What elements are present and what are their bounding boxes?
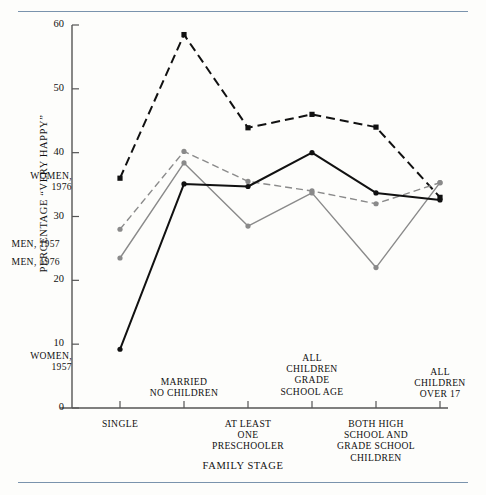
series-label: WOMEN, 1976 xyxy=(2,170,72,192)
y-axis-tick: 60 xyxy=(38,18,64,29)
x-axis-category-label: ALL CHILDREN OVER 17 xyxy=(397,366,483,400)
x-axis-category-label: BOTH HIGH SCHOOL AND GRADE SCHOOL CHILDR… xyxy=(316,418,436,463)
y-axis-title: PERCENTAGE “VERY HAPPY” xyxy=(38,79,49,309)
y-axis-tick: 10 xyxy=(38,337,64,348)
y-axis-tick: 0 xyxy=(38,401,64,412)
x-axis-title: FAMILY STAGE xyxy=(0,460,486,471)
series-label: WOMEN, 1957 xyxy=(2,350,72,372)
series-label: MEN, 1976 xyxy=(0,256,60,267)
chart-series-group xyxy=(120,35,440,350)
x-axis-category-label: AT LEAST ONE PRESCHOOLER xyxy=(200,418,296,452)
x-axis-category-label: ALL CHILDREN GRADE SCHOOL AGE xyxy=(264,352,360,397)
x-axis-category-label: SINGLE xyxy=(75,418,165,429)
figure-panel: 0102030405060 PERCENTAGE “VERY HAPPY” SI… xyxy=(0,0,486,495)
chart-markers-group xyxy=(117,32,442,352)
x-axis-category-label: MARRIED NO CHILDREN xyxy=(129,376,239,398)
series-label: MEN, 1957 xyxy=(0,238,60,249)
